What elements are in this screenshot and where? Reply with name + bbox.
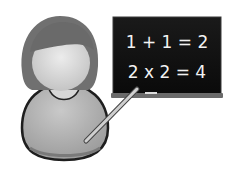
chalkboard: 1 + 1 = 2 2 x 2 = 4 — [111, 17, 223, 98]
teacher-body — [22, 84, 108, 160]
teacher-head — [21, 16, 98, 91]
board-line-2: 2 x 2 = 4 — [128, 62, 206, 82]
chalk-piece — [145, 92, 157, 94]
teacher-illustration: 1 + 1 = 2 2 x 2 = 4 — [0, 0, 240, 179]
board-line-1: 1 + 1 = 2 — [126, 32, 209, 52]
